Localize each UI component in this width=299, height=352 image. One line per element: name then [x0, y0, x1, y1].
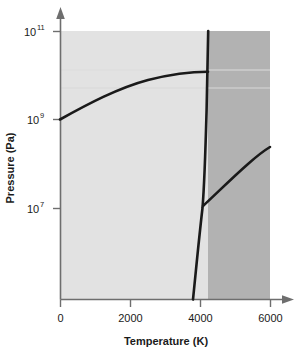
y-axis-arrow-icon	[56, 7, 65, 19]
y-tick-label-1e7-mantissa: 10	[27, 203, 39, 215]
x-tick-label-6000: 6000	[258, 312, 282, 324]
y-tick-label-1e7-exponent: 7	[40, 200, 44, 209]
y-tick-label-1e11-exponent: 11	[37, 23, 45, 32]
y-axis-title: Pressure (Pa)	[4, 132, 16, 203]
x-tick-label-4000: 4000	[188, 312, 212, 324]
y-tick-label-1e9-mantissa: 10	[27, 114, 39, 126]
y-tick-label-1e9-exponent: 9	[40, 111, 44, 120]
phase-diagram-figure: 10 11 10 9 10 7 0 2000 4000 6000 Tempera…	[0, 0, 299, 352]
light-phase-region	[60, 31, 208, 299]
x-axis-title: Temperature (K)	[124, 335, 208, 347]
x-tick-label-0: 0	[57, 312, 63, 324]
x-axis-arrow-icon	[282, 295, 294, 304]
y-tick-label-1e11-mantissa: 10	[24, 26, 36, 38]
x-tick-label-2000: 2000	[118, 312, 142, 324]
dark-phase-region	[208, 31, 270, 299]
